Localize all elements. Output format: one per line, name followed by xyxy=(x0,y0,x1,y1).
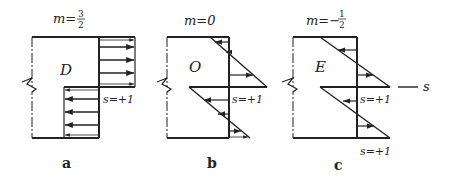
panel-c xyxy=(282,37,418,138)
s-label-upper-c: s=+1 xyxy=(360,93,391,106)
m-fraction-den-c: 2 xyxy=(339,20,345,30)
upper-diagonal-b xyxy=(210,37,267,87)
break-symbol-b xyxy=(157,78,171,92)
m-fraction-num-c: 1 xyxy=(339,9,345,19)
break-symbol-a xyxy=(22,78,36,92)
s-axis-label: s xyxy=(423,79,430,94)
s-label-a: s=+1 xyxy=(103,93,134,106)
m-label-a: m= xyxy=(53,11,76,26)
caption-a: a xyxy=(62,155,71,171)
caption-b: b xyxy=(207,155,217,171)
panel-b xyxy=(157,37,267,138)
m-fraction-den-a: 2 xyxy=(78,20,84,30)
break-symbol-c xyxy=(282,78,297,92)
m-label-b: m=0 xyxy=(184,13,216,28)
figure-canvas: m= 3 2 D s=+1 a m=0 O s=+1 b xyxy=(0,0,449,178)
s-label-lower-c: s=+1 xyxy=(360,145,391,158)
diagram-svg: m= 3 2 D s=+1 a m=0 O s=+1 b xyxy=(0,0,449,178)
m-label-c: m=− xyxy=(306,13,340,28)
region-label-o: O xyxy=(189,58,201,76)
caption-c: c xyxy=(334,157,343,173)
s-label-b: s=+1 xyxy=(232,93,263,106)
upper-diagonal-c xyxy=(320,37,390,87)
panel-a xyxy=(22,37,135,138)
region-label-e: E xyxy=(314,58,326,76)
m-fraction-num-a: 3 xyxy=(78,9,84,19)
region-label-d: D xyxy=(59,61,72,79)
